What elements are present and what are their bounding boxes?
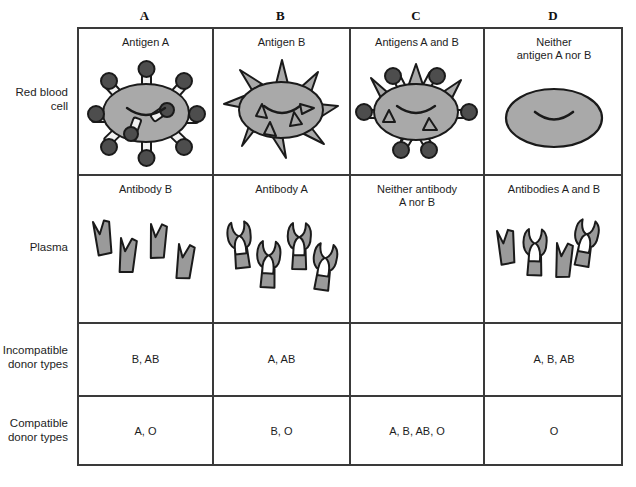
cell-caption-rbc-a: Antigen A <box>122 29 169 49</box>
cell-compatible-b: B, O <box>214 397 349 464</box>
cell-caption-plasma-b: Antibody A <box>255 176 308 196</box>
column-header-b: B <box>212 8 349 24</box>
rbc-antigen-b-art <box>214 49 349 174</box>
cell-value-compatible-a: A, O <box>134 425 156 437</box>
cell-plasma-b: Antibody A <box>214 176 349 321</box>
cell-caption-plasma-a: Antibody B <box>119 176 172 196</box>
antibody-none-art <box>351 209 483 321</box>
cell-value-compatible-d: O <box>550 425 559 437</box>
cell-rbc-b: Antigen B <box>214 29 349 174</box>
cell-value-incompatible-b: A, AB <box>268 353 296 365</box>
cell-caption-plasma-d: Antibodies A and B <box>508 176 600 196</box>
cell-plasma-c: Neither antibody A nor B <box>351 176 483 321</box>
row-label-plasma: Plasma <box>0 241 68 255</box>
cell-incompatible-b: A, AB <box>214 324 349 394</box>
cell-plasma-d: Antibodies A and B <box>485 176 623 321</box>
rbc-antigen-none-art <box>485 62 623 174</box>
blood-type-chart-figure: A B C D Red blood cell Plasma Incompatib… <box>0 0 636 487</box>
antibody-a-art <box>214 196 349 321</box>
row-label-incompatible: Incompatible donor types <box>0 344 68 371</box>
cell-caption-rbc-b: Antigen B <box>258 29 306 49</box>
cell-rbc-c: Antigens A and B <box>351 29 483 174</box>
cell-rbc-a: Antigen A <box>79 29 212 174</box>
cell-incompatible-a: B, AB <box>79 324 212 394</box>
rbc-antigen-a-art <box>79 49 212 174</box>
cell-plasma-a: Antibody B <box>79 176 212 321</box>
antibody-ab-art <box>485 196 623 321</box>
row-label-red-blood-cell: Red blood cell <box>0 86 68 113</box>
cell-caption-rbc-c: Antigens A and B <box>375 29 459 49</box>
cell-value-incompatible-a: B, AB <box>132 353 160 365</box>
cell-incompatible-c <box>351 324 483 394</box>
cell-value-compatible-b: B, O <box>270 425 292 437</box>
cell-caption-plasma-c: Neither antibody A nor B <box>377 176 457 209</box>
rbc-antigen-ab-art <box>351 49 483 174</box>
antibody-b-art <box>79 196 212 321</box>
cell-value-incompatible-d: A, B, AB <box>534 353 575 365</box>
cell-caption-rbc-d: Neither antigen A nor B <box>517 29 592 62</box>
column-header-a: A <box>77 8 212 24</box>
cell-value-compatible-c: A, B, AB, O <box>389 425 445 437</box>
cell-incompatible-d: A, B, AB <box>485 324 623 394</box>
cell-compatible-d: O <box>485 397 623 464</box>
cell-compatible-c: A, B, AB, O <box>351 397 483 464</box>
row-label-compatible: Compatible donor types <box>0 417 68 444</box>
column-header-c: C <box>349 8 483 24</box>
cell-rbc-d: Neither antigen A nor B <box>485 29 623 174</box>
cell-compatible-a: A, O <box>79 397 212 464</box>
column-header-d: D <box>483 8 623 24</box>
